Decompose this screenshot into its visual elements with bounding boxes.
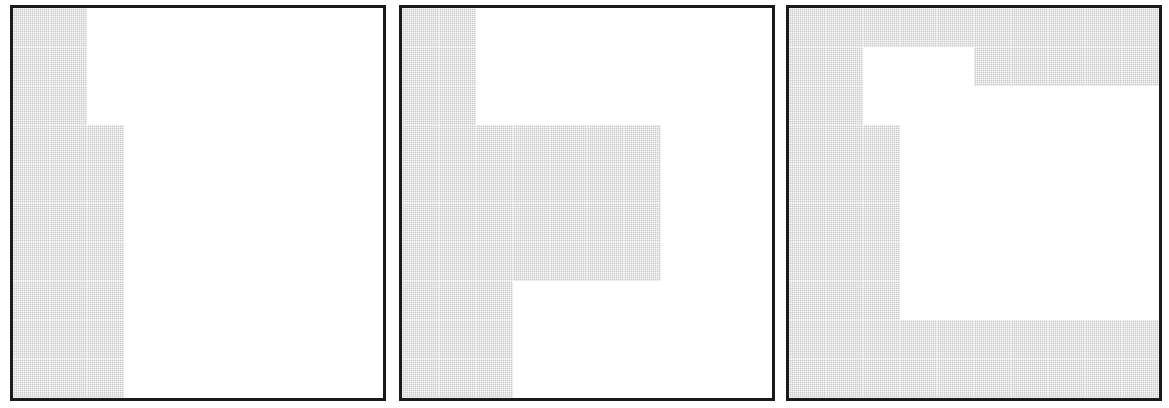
grid-cell-shaded [439, 203, 476, 242]
grid-cell-empty [900, 47, 937, 86]
grid-cell-shaded [13, 281, 50, 320]
grid-cell-empty [513, 359, 550, 398]
grid-cell-empty [235, 359, 272, 398]
grid-cell-empty [698, 242, 735, 281]
grid-cell-empty [161, 203, 198, 242]
grid-cell-empty [346, 125, 383, 164]
grid-cell-shaded [624, 203, 661, 242]
grid-cell-empty [309, 47, 346, 86]
grid-cell-shaded [1011, 47, 1048, 86]
grid-cell-empty [550, 47, 587, 86]
grid-cell-empty [309, 359, 346, 398]
grid-cell-shaded [587, 242, 624, 281]
grid-cell-empty [587, 8, 624, 47]
grid-cell-empty [124, 203, 161, 242]
grid-cell-empty [346, 164, 383, 203]
grid-cell-shaded [439, 242, 476, 281]
grid-cell-empty [735, 242, 772, 281]
grid-cell-empty [735, 203, 772, 242]
grid-cell-empty [1048, 242, 1085, 281]
grid-cell-shaded [789, 47, 826, 86]
grid-cell-empty [863, 86, 900, 125]
grid-cell-empty [272, 164, 309, 203]
grid-cell-empty [346, 86, 383, 125]
grid-cell-empty [198, 47, 235, 86]
grid-cell-empty [937, 47, 974, 86]
grid-cell-empty [235, 320, 272, 359]
grid-cell-empty [346, 242, 383, 281]
grid-cell-empty [974, 203, 1011, 242]
grid-cell-empty [550, 359, 587, 398]
grid-cell-shaded [826, 242, 863, 281]
grid-cell-empty [900, 203, 937, 242]
grid-cell-empty [1085, 203, 1122, 242]
grid-cell-empty [309, 242, 346, 281]
grid-cell-empty [476, 47, 513, 86]
grid-cell-shaded [550, 203, 587, 242]
grid-cell-empty [550, 320, 587, 359]
grid-cell-empty [272, 8, 309, 47]
grid-cell-shaded [863, 320, 900, 359]
grid-cell-empty [587, 281, 624, 320]
grid-cell-empty [161, 8, 198, 47]
grid-cell-empty [124, 242, 161, 281]
grid-cell-shaded [87, 125, 124, 164]
grid-cell-empty [346, 320, 383, 359]
grid-cell-empty [900, 125, 937, 164]
grid-cell-empty [161, 320, 198, 359]
grid-cell-shaded [863, 164, 900, 203]
grid-cell-empty [698, 47, 735, 86]
grid-cell-empty [87, 8, 124, 47]
grid-cell-shaded [439, 86, 476, 125]
grid-cell-empty [661, 8, 698, 47]
grid-panel-3 [786, 5, 1162, 401]
grid-cell-empty [624, 8, 661, 47]
grid-cell-empty [198, 203, 235, 242]
grid-cell-shaded [513, 125, 550, 164]
grid-cell-empty [900, 164, 937, 203]
grid-cell-shaded [826, 8, 863, 47]
grid-cell-shaded [974, 320, 1011, 359]
grid-cell-empty [87, 47, 124, 86]
grid-cell-empty [124, 125, 161, 164]
grid-cell-empty [1122, 125, 1159, 164]
grid-cell-empty [698, 8, 735, 47]
grid-cell-shaded [87, 164, 124, 203]
grid-cell-empty [272, 86, 309, 125]
grid-cell-shaded [1122, 320, 1159, 359]
grid-cell-empty [937, 164, 974, 203]
grid-cell-empty [198, 86, 235, 125]
grid-cell-shaded [1011, 8, 1048, 47]
grid-cell-empty [974, 281, 1011, 320]
grid-panel-1 [10, 5, 386, 401]
grid-cell-shaded [402, 281, 439, 320]
grid-cell-empty [698, 281, 735, 320]
grid-cell-shaded [789, 8, 826, 47]
grid-cell-empty [1011, 164, 1048, 203]
grid-cell-empty [1122, 281, 1159, 320]
grid-cell-empty [198, 281, 235, 320]
grid-cell-shaded [87, 203, 124, 242]
grid-cell-empty [198, 320, 235, 359]
grid-cell-shaded [50, 242, 87, 281]
grid-cell-empty [513, 281, 550, 320]
grid-cell-shaded [863, 125, 900, 164]
grid-cell-shaded [439, 359, 476, 398]
grid-cell-empty [735, 164, 772, 203]
grid-cell-shaded [1085, 359, 1122, 398]
grid-cell-shaded [789, 281, 826, 320]
grid-cell-empty [124, 47, 161, 86]
grid-cell-empty [309, 320, 346, 359]
grid-cell-empty [735, 281, 772, 320]
grid-cell-empty [698, 320, 735, 359]
grid-cell-empty [513, 320, 550, 359]
grid-cell-shaded [402, 86, 439, 125]
grid-cell-shaded [826, 320, 863, 359]
grid-cell-shaded [402, 359, 439, 398]
grid-cell-shaded [50, 164, 87, 203]
grid-cell-empty [124, 320, 161, 359]
grid-cell-shaded [13, 164, 50, 203]
grid-cell-empty [235, 164, 272, 203]
grid-cell-shaded [826, 47, 863, 86]
grid-cell-shaded [826, 203, 863, 242]
